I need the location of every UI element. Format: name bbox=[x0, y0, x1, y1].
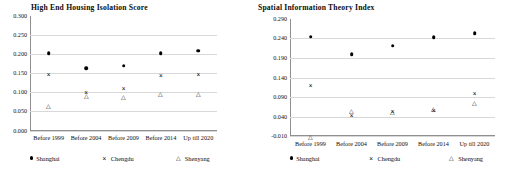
plot-area-right: 0.2900.2400.1900.1400.0900.040-0.010Befo… bbox=[290, 19, 495, 136]
data-point-shenyang-before-2009: △ bbox=[388, 107, 397, 116]
y-axis-tick-label: 0.040 bbox=[273, 114, 287, 120]
legend-item-shanghai[interactable]: Shanghai bbox=[290, 155, 320, 162]
data-point-chengdu-up-till-2020: × bbox=[470, 89, 479, 98]
y-axis-tick-label: 0.250 bbox=[13, 32, 27, 38]
x-axis-tick-label-before-1999: Before 1999 bbox=[33, 134, 64, 141]
data-point-shanghai-before-2009 bbox=[122, 64, 126, 68]
data-point-shanghai-before-2014 bbox=[432, 35, 436, 39]
y-axis-tick-label: 0.090 bbox=[273, 94, 287, 100]
x-axis-tick-label-before-2014: Before 2014 bbox=[418, 140, 449, 147]
chart-panel-high-end-housing-isolation-score: High End Housing Isolation Score 0.3000.… bbox=[0, 0, 253, 174]
data-point-shanghai-up-till-2020 bbox=[473, 31, 477, 35]
data-point-shenyang-before-2014: △ bbox=[156, 88, 165, 97]
x-axis-tick-label-before-2009: Before 2009 bbox=[108, 134, 139, 141]
gridline bbox=[30, 111, 217, 112]
legend-label: Chengdu bbox=[378, 155, 401, 162]
y-axis-tick-label: 0.100 bbox=[13, 89, 27, 95]
y-axis-tick-label: 0.000 bbox=[13, 128, 27, 134]
chart-title: High End Housing Isolation Score bbox=[31, 3, 148, 12]
legend-item-shenyang[interactable]: △Shenyang bbox=[175, 154, 210, 162]
data-point-shenyang-up-till-2020: △ bbox=[470, 98, 479, 107]
data-point-shanghai-before-1999 bbox=[309, 35, 313, 39]
gridline bbox=[30, 54, 217, 55]
data-point-shanghai-before-2014 bbox=[159, 52, 163, 56]
data-point-shanghai-before-1999 bbox=[47, 52, 51, 56]
gridline bbox=[290, 97, 495, 98]
x-axis-tick-label-up-till-2020: Up till 2020 bbox=[183, 134, 213, 141]
y-axis-tick-label: 0.050 bbox=[13, 108, 27, 114]
y-axis-tick-label: 0.190 bbox=[273, 55, 287, 61]
gridline bbox=[30, 35, 217, 36]
legend-item-shanghai[interactable]: Shanghai bbox=[30, 155, 60, 162]
legend-label: Shanghai bbox=[296, 155, 319, 162]
x-axis-tick-label-before-2014: Before 2014 bbox=[146, 134, 177, 141]
data-point-shenyang-before-1999: △ bbox=[44, 101, 53, 110]
legend-label: Shanghai bbox=[36, 155, 59, 162]
x-axis-tick-label-before-2004: Before 2004 bbox=[336, 140, 367, 147]
y-axis-tick-label: 0.240 bbox=[273, 35, 287, 41]
chart-panel-spatial-information-theory-index: Spatial Information Theory Index 0.2900.… bbox=[253, 0, 506, 174]
y-axis-tick-label: 0.140 bbox=[273, 75, 287, 81]
gridline bbox=[290, 78, 495, 79]
x-axis-tick-label-before-2004: Before 2004 bbox=[71, 134, 102, 141]
data-point-shenyang-before-2004: △ bbox=[82, 91, 91, 100]
chart-legend-left: Shanghai×Chengdu△Shenyang bbox=[30, 154, 220, 162]
y-axis-tick-label: 0.290 bbox=[273, 16, 287, 22]
legend-marker-triangle-icon: △ bbox=[448, 154, 455, 162]
x-axis-tick-label-up-till-2020: Up till 2020 bbox=[460, 140, 490, 147]
data-point-shenyang-before-2004: △ bbox=[347, 106, 356, 115]
data-point-shenyang-before-2014: △ bbox=[429, 103, 438, 112]
data-point-chengdu-before-1999: × bbox=[306, 80, 315, 89]
legend-marker-filled-circle-icon bbox=[30, 156, 33, 159]
chart-legend-right: Shanghai×Chengdu△Shenyang bbox=[290, 154, 495, 162]
data-point-shenyang-before-2009: △ bbox=[119, 92, 128, 101]
gridline bbox=[290, 38, 495, 39]
gridline bbox=[30, 73, 217, 74]
data-point-shanghai-up-till-2020 bbox=[197, 49, 201, 53]
legend-item-chengdu[interactable]: ×Chengdu bbox=[101, 155, 134, 162]
data-point-shenyang-up-till-2020: △ bbox=[194, 88, 203, 97]
legend-label: Chengdu bbox=[111, 155, 134, 162]
y-axis-tick-label: 0.300 bbox=[13, 13, 27, 19]
gridline bbox=[290, 136, 495, 137]
legend-marker-filled-circle-icon bbox=[290, 156, 293, 159]
data-point-shanghai-before-2004 bbox=[84, 66, 88, 70]
plot-area-left: 0.3000.2500.2000.1500.1000.0500.000Befor… bbox=[30, 16, 217, 131]
x-axis-tick-label-before-1999: Before 1999 bbox=[295, 140, 326, 147]
figure-container: High End Housing Isolation Score 0.3000.… bbox=[0, 0, 506, 174]
y-axis-tick-label: -0.010 bbox=[271, 133, 287, 139]
legend-marker-cross-icon: × bbox=[101, 155, 108, 162]
data-point-shanghai-before-2009 bbox=[391, 44, 395, 48]
data-point-chengdu-before-2014: × bbox=[156, 71, 165, 80]
data-point-chengdu-before-1999: × bbox=[44, 69, 53, 78]
data-point-chengdu-up-till-2020: × bbox=[194, 70, 203, 79]
legend-marker-triangle-icon: △ bbox=[175, 154, 182, 162]
gridline bbox=[290, 117, 495, 118]
chart-title: Spatial Information Theory Index bbox=[258, 3, 375, 12]
gridline bbox=[30, 131, 217, 132]
x-axis-tick-label-before-2009: Before 2009 bbox=[377, 140, 408, 147]
legend-item-chengdu[interactable]: ×Chengdu bbox=[368, 155, 401, 162]
y-axis-tick-label: 0.200 bbox=[13, 51, 27, 57]
legend-item-shenyang[interactable]: △Shenyang bbox=[448, 154, 483, 162]
y-axis-tick-label: 0.150 bbox=[13, 70, 27, 76]
gridline bbox=[290, 58, 495, 59]
data-point-shanghai-before-2004 bbox=[350, 52, 354, 56]
legend-marker-cross-icon: × bbox=[368, 155, 375, 162]
legend-label: Shenyang bbox=[185, 155, 210, 162]
legend-label: Shenyang bbox=[458, 155, 483, 162]
data-point-shenyang-before-1999: △ bbox=[306, 131, 315, 140]
